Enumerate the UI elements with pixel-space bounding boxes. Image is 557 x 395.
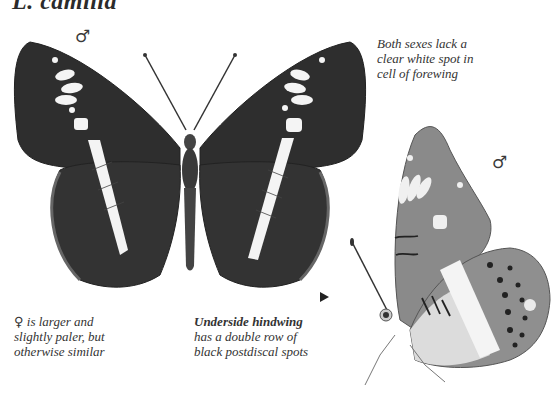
underside-butterfly-illustration	[340, 120, 557, 395]
pointer-arrow-icon	[320, 292, 329, 302]
forewing-caption: Both sexes lack a clear white spot in ce…	[377, 36, 473, 81]
female-caption: ♀ is larger and slightly paler, but othe…	[14, 314, 105, 359]
upperside-butterfly-illustration	[0, 30, 370, 300]
female-symbol: ♀	[14, 314, 24, 329]
species-title: L. camilla	[12, 0, 117, 15]
underside-heading: Underside hindwing	[194, 314, 303, 329]
thorax	[182, 148, 198, 192]
abdomen	[184, 188, 196, 271]
head	[184, 134, 196, 150]
underside-caption: Underside hindwing has a double row of b…	[194, 314, 308, 359]
